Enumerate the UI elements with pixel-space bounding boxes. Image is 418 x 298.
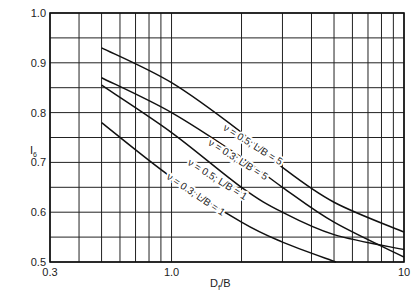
y-tick-label: 0.6 [31,206,46,218]
y-tick-labels: 0.50.60.70.80.91.0 [31,7,46,268]
y-tick-label: 0.7 [31,156,46,168]
x-tick-label: 0.3 [42,266,57,278]
x-tick-label: 10 [398,266,410,278]
data-curves [102,48,404,262]
grid-lines [50,13,404,262]
y-tick-label: 0.9 [31,57,46,69]
chart: 0.50.60.70.80.91.0 0.31.010 ν = 0.5; L/B… [0,0,418,298]
y-axis-label: I6 [30,144,37,158]
y-tick-label: 0.8 [31,107,46,119]
x-axis-label: Df/B [210,277,231,292]
y-tick-label: 1.0 [31,7,46,19]
x-tick-label: 1.0 [164,266,179,278]
